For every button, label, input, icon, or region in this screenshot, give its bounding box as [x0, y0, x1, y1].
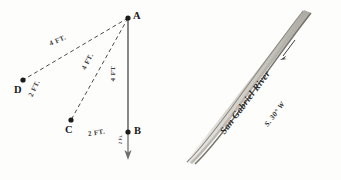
dimension-label-ab: 4 FT — [110, 66, 117, 82]
station-dot-b — [125, 129, 130, 134]
station-dot-d — [20, 77, 25, 82]
station-dot-c — [68, 117, 73, 122]
station-label-b: B — [134, 126, 141, 137]
station-dot-a — [125, 15, 130, 20]
arrow-note-label: 2 Ft. — [119, 134, 124, 144]
station-label-d: D — [14, 85, 22, 96]
triangle-diagram-panel: A B C D 4 FT. 4 FT. 4 FT 2 FT. 2 FT. 2 F… — [0, 0, 170, 180]
river-diagram-panel: San Gabriel River S. 30° W — [170, 0, 341, 180]
figure-root: A B C D 4 FT. 4 FT. 4 FT 2 FT. 2 FT. 2 F… — [0, 0, 341, 180]
triangle-line-layer — [0, 0, 170, 180]
station-label-c: C — [65, 125, 73, 136]
segment-a-c — [71, 18, 128, 120]
station-label-a: A — [133, 11, 141, 22]
